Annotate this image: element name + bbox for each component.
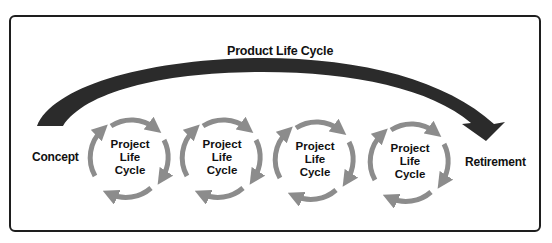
project-cycle-label-4: Project Life Cycle (380, 142, 440, 181)
cycle-label-line: Project (192, 138, 252, 151)
cycle-label-line: Cycle (380, 168, 440, 181)
cycle-label-line: Life (380, 155, 440, 168)
diagram-graphics (0, 0, 552, 243)
start-label-concept: Concept (32, 150, 79, 164)
cycle-label-line: Cycle (100, 164, 160, 177)
cycle-label-line: Life (100, 151, 160, 164)
project-cycle-label-3: Project Life Cycle (285, 140, 345, 179)
cycle-label-line: Project (285, 140, 345, 153)
end-label-retirement: Retirement (465, 155, 526, 169)
cycle-label-line: Project (380, 142, 440, 155)
cycle-label-line: Cycle (192, 164, 252, 177)
project-cycle-label-2: Project Life Cycle (192, 138, 252, 177)
project-cycle-label-1: Project Life Cycle (100, 138, 160, 177)
cycle-label-line: Life (285, 153, 345, 166)
cycle-label-line: Life (192, 151, 252, 164)
product-life-cycle-arrow-icon (37, 58, 505, 141)
cycle-label-line: Cycle (285, 166, 345, 179)
diagram-title: Product Life Cycle (227, 44, 333, 58)
cycle-label-line: Project (100, 138, 160, 151)
